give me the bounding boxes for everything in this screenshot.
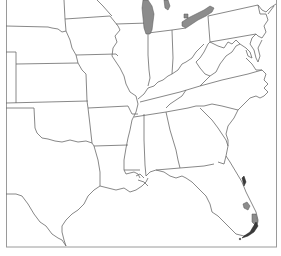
border-pa-md <box>210 34 256 42</box>
border-tn-south <box>134 108 188 117</box>
border-mississippi-south <box>124 104 140 178</box>
border-ia-east <box>116 54 118 56</box>
border-mn-wi <box>97 0 112 16</box>
florida-keys <box>242 222 258 238</box>
border-mn-ia <box>65 16 110 19</box>
border-mo-ar <box>88 106 138 114</box>
louisiana-coast <box>100 174 148 192</box>
lake-okeechobee <box>243 202 250 210</box>
map-frame <box>7 0 277 247</box>
border-iowa-ne-mo <box>64 0 92 143</box>
shaded-areas <box>142 0 258 240</box>
ny-coast <box>266 4 276 14</box>
border-in-oh <box>172 30 173 74</box>
virginia-coast <box>246 58 268 98</box>
key-west <box>239 238 241 240</box>
border-al-ga <box>166 112 180 168</box>
border-pa-ny <box>208 5 266 16</box>
border-mi-in-oh <box>148 28 186 33</box>
border-ok-panhandle <box>6 108 92 143</box>
lake-st-clair <box>184 14 188 18</box>
nc-coast <box>238 96 260 110</box>
border-ms-al <box>144 114 146 176</box>
lake-michigan <box>142 0 154 34</box>
florida-coast <box>146 156 258 236</box>
border-mississippi-north <box>110 16 138 104</box>
state-boundaries <box>6 0 276 246</box>
sc-coast <box>226 110 238 146</box>
lake-michigan-east-patch <box>164 0 170 10</box>
border-sc-ga <box>200 108 228 146</box>
border-sd-ne <box>6 26 66 32</box>
border-ia-mo <box>76 54 116 55</box>
border-nc-sc-ga <box>188 104 238 110</box>
border-tx-la <box>92 143 100 186</box>
texas-coast <box>62 186 100 246</box>
border-ar-la <box>94 145 128 146</box>
border-ky-tn-va <box>140 70 262 102</box>
chesapeake <box>240 34 262 62</box>
border-ne-ks <box>16 63 78 64</box>
texas-west <box>6 194 66 246</box>
ga-coast <box>218 146 228 164</box>
border-co-ne <box>6 52 16 103</box>
border-ks-ok <box>6 101 88 103</box>
border-oh-pa <box>208 16 210 44</box>
eastern-us-map <box>0 0 281 256</box>
border-ga-fl <box>156 164 214 170</box>
border-wi-il <box>116 23 148 24</box>
